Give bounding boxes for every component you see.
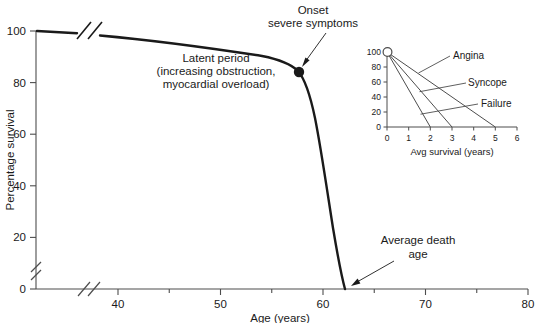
x-tick-label-50: 50 bbox=[214, 298, 227, 310]
inset-leader-angina bbox=[419, 56, 451, 73]
inset-label-failure: Failure bbox=[481, 98, 512, 109]
main-x-ticks bbox=[118, 289, 528, 295]
inset-y-tick-labels: 0 20 40 60 80 100 bbox=[367, 47, 381, 132]
inset-origin-marker bbox=[383, 48, 392, 57]
inset-y-label-40: 40 bbox=[372, 92, 382, 102]
inset-x-tick-labels: 0 1 2 3 4 5 6 bbox=[385, 133, 520, 143]
inset-x-label-6: 6 bbox=[515, 133, 520, 143]
annotation-average-death-age: Average death age bbox=[351, 234, 455, 286]
y-tick-label-100: 100 bbox=[7, 25, 26, 37]
x-axis-title: Age (years) bbox=[250, 312, 310, 323]
inset-x-label-5: 5 bbox=[493, 133, 498, 143]
inset-y-label-80: 80 bbox=[372, 62, 382, 72]
chart-canvas: 0 20 40 60 80 100 40 bbox=[0, 0, 540, 323]
y-axis-title: Percentage survival bbox=[4, 110, 16, 211]
x-tick-label-60: 60 bbox=[317, 298, 330, 310]
inset-y-label-100: 100 bbox=[367, 47, 381, 57]
inset-x-label-1: 1 bbox=[406, 133, 411, 143]
inset-x-label-4: 4 bbox=[471, 133, 476, 143]
inset-label-syncope: Syncope bbox=[468, 77, 507, 88]
inset-line-failure bbox=[387, 52, 430, 127]
inset-y-label-60: 60 bbox=[372, 77, 382, 87]
inset-x-label-0: 0 bbox=[385, 133, 390, 143]
onset-line-1: Onset bbox=[298, 4, 329, 16]
y-tick-label-20: 20 bbox=[13, 231, 26, 243]
x-tick-label-40: 40 bbox=[112, 298, 125, 310]
main-y-ticks bbox=[30, 31, 36, 289]
latent-period-line-2: (increasing obstruction, bbox=[157, 65, 276, 77]
inset-x-axis-title: Avg survival (years) bbox=[410, 146, 493, 157]
x-tick-label-80: 80 bbox=[522, 298, 535, 310]
inset-x-label-3: 3 bbox=[450, 133, 455, 143]
aortic-stenosis-survival-figure: 0 20 40 60 80 100 40 bbox=[0, 0, 540, 323]
inset-line-angina bbox=[387, 52, 495, 127]
onset-severe-symptoms-marker bbox=[294, 67, 304, 77]
inset-line-syncope bbox=[387, 52, 452, 127]
inset-y-label-0: 0 bbox=[376, 122, 381, 132]
inset-label-angina: Angina bbox=[453, 50, 485, 61]
average-death-arrow bbox=[351, 261, 394, 286]
onset-line-2: severe symptoms bbox=[268, 17, 358, 29]
inset-x-ticks bbox=[387, 127, 517, 131]
x-tick-label-70: 70 bbox=[419, 298, 432, 310]
average-death-line-1: Average death bbox=[381, 234, 456, 246]
curve-break-mark bbox=[77, 22, 102, 39]
inset-y-ticks bbox=[384, 52, 388, 127]
latent-period-line-3: myocardial overload) bbox=[163, 78, 270, 90]
annotation-onset-severe-symptoms: Onset severe symptoms bbox=[268, 4, 358, 67]
y-tick-label-80: 80 bbox=[13, 77, 26, 89]
main-x-tick-labels: 40 50 60 70 80 bbox=[112, 298, 535, 310]
average-death-line-2: age bbox=[408, 248, 427, 260]
inset-y-label-20: 20 bbox=[372, 107, 382, 117]
y-tick-label-0: 0 bbox=[20, 283, 26, 295]
inset-x-label-2: 2 bbox=[428, 133, 433, 143]
onset-arrow bbox=[302, 33, 326, 67]
latent-period-line-1: Latent period bbox=[182, 52, 249, 64]
inset-chart: 0 20 40 60 80 100 0 1 2 bbox=[367, 47, 520, 157]
annotation-latent-period: Latent period (increasing obstruction, m… bbox=[157, 52, 276, 90]
